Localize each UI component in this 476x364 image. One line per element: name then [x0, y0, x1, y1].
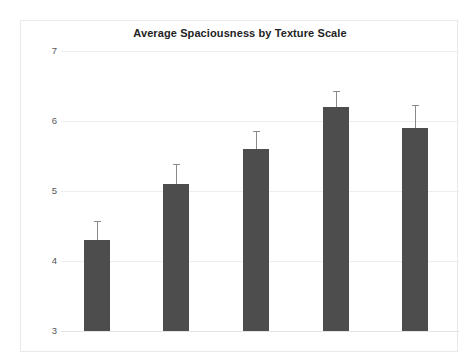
bar[interactable]: [163, 184, 189, 331]
gridline: [61, 51, 459, 52]
error-bar-cap: [333, 91, 340, 92]
gridline: [61, 121, 459, 122]
bar[interactable]: [402, 128, 428, 331]
figure-frame: Average Spaciousness by Texture Scale 34…: [20, 20, 458, 352]
gridline: [61, 331, 459, 332]
bar[interactable]: [323, 107, 349, 331]
bar[interactable]: [243, 149, 269, 331]
error-bar: [415, 105, 416, 128]
y-axis-tick-label: 5: [35, 186, 57, 196]
y-axis-tick-label: 3: [35, 326, 57, 336]
bar[interactable]: [84, 240, 110, 331]
error-bar: [336, 91, 337, 107]
chart-container: Average Spaciousness by Texture Scale 34…: [0, 0, 476, 364]
chart-title: Average Spaciousness by Texture Scale: [21, 27, 459, 39]
y-axis-tick-label: 4: [35, 256, 57, 266]
error-bar-cap: [253, 131, 260, 132]
error-bar: [176, 164, 177, 184]
error-bar-cap: [94, 221, 101, 222]
error-bar: [97, 221, 98, 240]
error-bar-cap: [173, 164, 180, 165]
error-bar: [256, 131, 257, 149]
error-bar-cap: [412, 105, 419, 106]
y-axis-tick-label: 6: [35, 116, 57, 126]
plot-area: XLLMSsolid: [61, 51, 459, 331]
y-axis-tick-label: 7: [35, 46, 57, 56]
y-axis: 34567: [21, 51, 57, 331]
